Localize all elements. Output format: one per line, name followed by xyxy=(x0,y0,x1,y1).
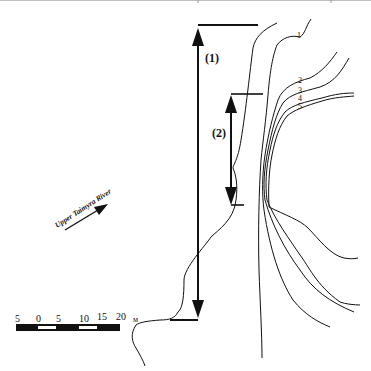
range-1-arrow xyxy=(170,25,258,320)
diagram-canvas: (1) (2) 1 2 3 4 5 Upper Taimyra River 5 … xyxy=(0,0,371,371)
figure: (1) (2) 1 2 3 4 5 Upper Taimyra River 5 … xyxy=(0,0,371,371)
scale-bar xyxy=(16,324,120,331)
contour-line-3 xyxy=(264,58,354,312)
contour-label-1: 1 xyxy=(297,31,301,40)
scale-tick-5: 20 xyxy=(116,311,126,322)
scale-tick-2: 5 xyxy=(56,313,61,324)
scale-tick-1: 0 xyxy=(36,313,41,324)
scale-tick-3: 10 xyxy=(79,313,89,324)
range-2-label: (2) xyxy=(212,126,226,140)
range-1-label: (1) xyxy=(205,51,219,65)
contour-label-5: 5 xyxy=(298,102,302,111)
scale-tick-0: 5 xyxy=(15,313,20,324)
contour-line-5 xyxy=(269,96,358,259)
scale-tick-4: 15 xyxy=(97,311,107,322)
range-2-arrow xyxy=(225,94,263,205)
scale-unit: м xyxy=(133,315,138,324)
contour-label-2: 2 xyxy=(298,76,302,85)
shoreline-line xyxy=(132,23,277,366)
